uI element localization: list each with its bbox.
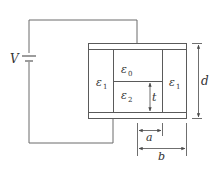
top-wire [29,20,137,53]
svg-text:ε: ε [121,89,127,102]
svg-text:0: 0 [128,70,132,78]
dimension-t: t [150,83,157,111]
svg-text:d: d [201,74,209,88]
bottom-wire [29,62,113,143]
svg-text:1: 1 [103,83,107,91]
voltage-label: V [10,52,20,66]
diagram-svg: V ε 1 ε 0 ε 2 ε 1 t [0,0,217,170]
dielectric-bottom-center-label: ε 2 [121,89,132,104]
dielectric-left-label: ε 1 [96,76,107,91]
svg-text:t: t [152,91,157,104]
battery-icon [22,56,36,61]
svg-text:2: 2 [128,96,132,104]
dielectric-top-center-label: ε 0 [121,63,132,78]
dimension-d: d [192,44,209,119]
svg-text:ε: ε [96,76,102,89]
svg-text:ε: ε [121,63,127,76]
capacitor-diagram: V ε 1 ε 0 ε 2 ε 1 t [0,0,217,170]
dielectric-right-label: ε 1 [169,76,180,91]
svg-text:b: b [158,150,165,163]
svg-text:a: a [146,131,153,144]
svg-text:1: 1 [176,83,180,91]
svg-text:ε: ε [169,76,175,89]
